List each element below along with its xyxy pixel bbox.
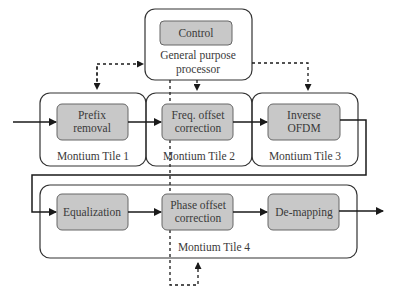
tile-4-label: Montium Tile 4 <box>178 241 250 253</box>
freq-offset-line2: correction <box>175 122 222 134</box>
control-link-tile1 <box>97 64 143 88</box>
montium-tile-4: Equalization Phase offset correction De-… <box>40 185 357 258</box>
general-purpose-processor: Control General purpose processor <box>145 9 252 80</box>
ofdm-receiver-diagram: Control General purpose processor Prefix… <box>0 0 393 305</box>
tile-1-label: Montium Tile 1 <box>57 150 129 162</box>
control-label: Control <box>178 27 213 39</box>
tile-3-label: Montium Tile 3 <box>269 150 341 162</box>
montium-tile-3: Inverse OFDM Montium Tile 3 <box>252 93 358 166</box>
phase-offset-line2: correction <box>175 212 222 224</box>
tile-2-label: Montium Tile 2 <box>163 150 235 162</box>
inverse-ofdm-line2: OFDM <box>287 122 320 134</box>
gpp-label-line1: General purpose <box>160 49 236 62</box>
montium-tile-2: Freq. offset correction Montium Tile 2 <box>146 93 252 166</box>
gpp-label-line2: processor <box>176 63 220 76</box>
equalization-label: Equalization <box>63 206 121 219</box>
de-mapping-label: De-mapping <box>275 206 333 219</box>
montium-tile-1: Prefix removal Montium Tile 1 <box>40 93 146 166</box>
control-link-tile3 <box>252 63 308 90</box>
inverse-ofdm-line1: Inverse <box>287 109 321 121</box>
phase-offset-line1: Phase offset <box>170 199 226 211</box>
freq-offset-line1: Freq. offset <box>172 109 226 122</box>
prefix-removal-line2: removal <box>73 122 111 134</box>
prefix-removal-line1: Prefix <box>78 109 106 121</box>
